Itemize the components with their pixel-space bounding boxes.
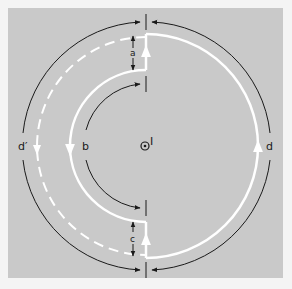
- label-d: d: [266, 140, 273, 153]
- label-c: c: [130, 234, 135, 244]
- ampere-loop-diagram: I a c b d d′: [0, 0, 292, 289]
- dashed-white-path-d-prime: [37, 37, 146, 255]
- current-dot-icon: [141, 142, 149, 150]
- label-current: I: [150, 135, 153, 148]
- inner-black-arc: [86, 76, 146, 216]
- label-a: a: [130, 48, 136, 58]
- label-d-prime: d′: [18, 140, 28, 153]
- label-b: b: [82, 140, 89, 153]
- outer-white-path: [146, 34, 258, 258]
